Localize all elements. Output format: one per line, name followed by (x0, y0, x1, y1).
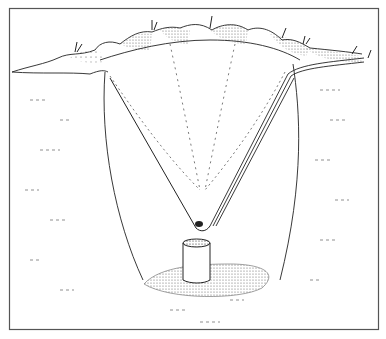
illustration (0, 0, 386, 339)
drop (195, 221, 203, 227)
container (183, 239, 210, 283)
